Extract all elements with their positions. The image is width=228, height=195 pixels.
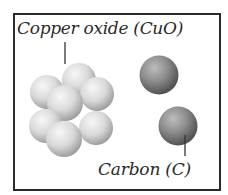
copper-oxide-cluster: [29, 63, 114, 157]
cuo-sphere: [79, 111, 113, 145]
carbon-sphere-top: [140, 56, 179, 95]
carbon-label: Carbon (C): [98, 159, 191, 179]
copper-oxide-label: Copper oxide (CuO): [17, 18, 183, 38]
carbon-sphere-bottom: [159, 107, 198, 146]
cuo-sphere: [80, 77, 114, 111]
cuo-sphere: [46, 121, 82, 157]
